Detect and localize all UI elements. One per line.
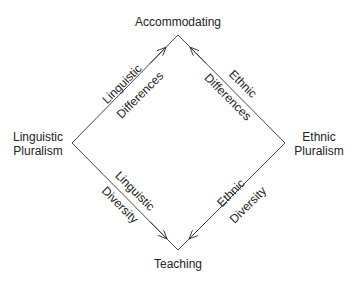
node-teaching-label: Teaching (154, 257, 202, 271)
node-ethnic-pluralism-line1: Ethnic (288, 130, 350, 144)
node-linguistic-pluralism-line2: Pluralism (8, 144, 68, 158)
node-accommodating: Accommodating (128, 15, 228, 29)
node-linguistic-pluralism: Linguistic Pluralism (8, 130, 68, 158)
node-teaching: Teaching (138, 257, 218, 271)
node-linguistic-pluralism-line1: Linguistic (8, 130, 68, 144)
node-ethnic-pluralism-line2: Pluralism (288, 144, 350, 158)
node-accommodating-label: Accommodating (135, 15, 221, 29)
node-ethnic-pluralism: Ethnic Pluralism (288, 130, 350, 158)
